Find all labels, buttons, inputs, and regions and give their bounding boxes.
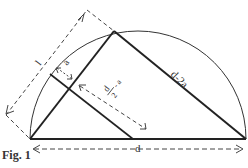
label-d: d	[135, 142, 141, 154]
dimension-l	[6, 10, 114, 139]
figure-caption: Fig. 1	[2, 148, 31, 163]
label-half-d: d 2 - a	[100, 73, 128, 101]
geometry-diagram: l a d 2 - a d-2a d	[0, 0, 248, 168]
label-d-2a: d-2a	[169, 68, 191, 90]
left-chord	[30, 31, 114, 139]
dimension-a	[57, 68, 72, 79]
label-l: l	[33, 58, 44, 67]
semicircle-arc	[30, 31, 246, 139]
svg-text:2: 2	[110, 91, 120, 100]
